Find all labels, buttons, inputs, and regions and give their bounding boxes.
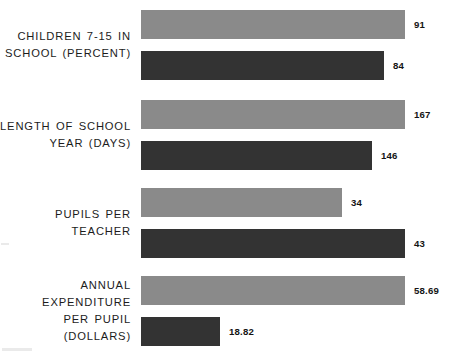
bar-series-b (141, 229, 405, 258)
bar-value-label: 146 (381, 151, 398, 161)
bar-value-label: 84 (393, 61, 404, 71)
bar-group: PUPILS PER TEACHER 34 43 (0, 186, 449, 260)
bar-row-series-b: 18.82 (141, 317, 254, 346)
bar-series-b (141, 51, 384, 80)
bar-row-series-a: 91 (141, 10, 425, 39)
bar-value-label: 34 (351, 198, 362, 208)
bar-group: LENGTH OF SCHOOL YEAR (DAYS) 167 146 (0, 98, 449, 172)
category-label: CHILDREN 7-15 IN SCHOOL (PERCENT) (0, 28, 131, 62)
bar-value-label: 58.69 (414, 286, 439, 296)
bar-value-label: 91 (414, 20, 425, 30)
bar-series-a (141, 276, 405, 305)
bar-row-series-b: 43 (141, 229, 425, 258)
bar-series-a (141, 188, 342, 217)
bar-series-a (141, 10, 405, 39)
bar-row-series-a: 167 (141, 100, 431, 129)
bar-value-label: 167 (414, 110, 431, 120)
scan-artifact (2, 348, 32, 351)
bar-group: ANNUAL EXPENDITURE PER PUPIL (DOLLARS) 5… (0, 274, 449, 348)
bar-series-a (141, 100, 405, 129)
bar-series-b (141, 317, 220, 346)
bar-value-label: 18.82 (229, 327, 254, 337)
bar-row-series-b: 146 (141, 141, 398, 170)
category-label: LENGTH OF SCHOOL YEAR (DAYS) (0, 118, 131, 152)
bar-series-b (141, 141, 372, 170)
category-label: PUPILS PER TEACHER (0, 206, 131, 240)
bar-row-series-a: 58.69 (141, 276, 439, 305)
bar-chart: CHILDREN 7-15 IN SCHOOL (PERCENT) 91 84 … (0, 0, 449, 362)
bar-row-series-b: 84 (141, 51, 404, 80)
bar-group: CHILDREN 7-15 IN SCHOOL (PERCENT) 91 84 (0, 8, 449, 82)
bar-row-series-a: 34 (141, 188, 362, 217)
bar-value-label: 43 (414, 239, 425, 249)
chart-plot-area: CHILDREN 7-15 IN SCHOOL (PERCENT) 91 84 … (0, 0, 449, 362)
category-label: ANNUAL EXPENDITURE PER PUPIL (DOLLARS) (0, 277, 131, 345)
